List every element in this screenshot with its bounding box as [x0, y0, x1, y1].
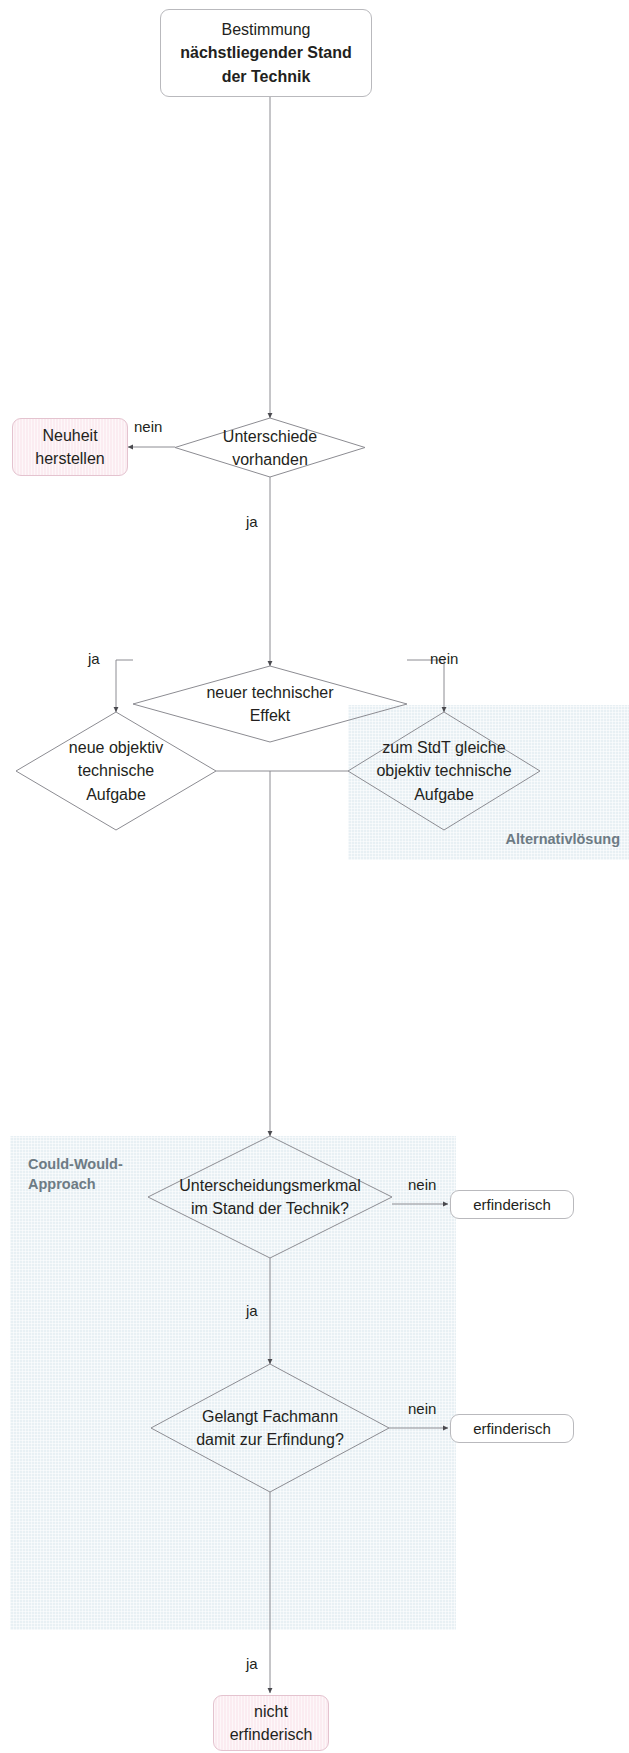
- zone-label-could-would-approach: Could-Would- Approach: [28, 1155, 208, 1194]
- edge-label-fachmann-ja: ja: [246, 1655, 258, 1672]
- node-neue-objektiv-technische-aufgabe[interactable]: neue objektiv technische Aufgabe: [16, 712, 216, 830]
- edge-label-effekt-nein: nein: [430, 650, 458, 667]
- node-neue-objektiv-technische-aufgabe-label: neue objektiv technische Aufgabe: [16, 712, 216, 830]
- edge-label-merkmal-ja: ja: [246, 1302, 258, 1319]
- node-zum-stdt-gleiche-aufgabe[interactable]: zum StdT gleiche objektiv technische Auf…: [348, 712, 540, 830]
- flowchart-canvas: Alternativlösung Could-Would- Approach: [0, 0, 629, 1753]
- zone-label-alternativloesung: Alternativlösung: [430, 830, 620, 850]
- node-zum-stdt-gleiche-aufgabe-label: zum StdT gleiche objektiv technische Auf…: [339, 712, 549, 830]
- edge-label-effekt-ja: ja: [88, 650, 100, 667]
- node-bestimmung-stand-der-technik[interactable]: Bestimmung nächstliegender Stand der Tec…: [160, 9, 372, 97]
- node-gelangt-fachmann[interactable]: Gelangt Fachmann damit zur Erfindung?: [151, 1364, 389, 1492]
- node-neuheit-herstellen[interactable]: Neuheit herstellen: [12, 418, 128, 476]
- node-erfinderisch-1[interactable]: erfinderisch: [450, 1190, 574, 1219]
- edge-label-unterschiede-ja: ja: [246, 513, 258, 530]
- node-unterschiede-vorhanden-label: Unterschiede vorhanden: [175, 418, 365, 478]
- edge-label-merkmal-nein: nein: [408, 1176, 436, 1193]
- title-line-1: Bestimmung: [222, 18, 311, 41]
- node-erfinderisch-2[interactable]: erfinderisch: [450, 1414, 574, 1443]
- edge-label-fachmann-nein: nein: [408, 1400, 436, 1417]
- title-line-2: nächstliegender Stand: [180, 41, 352, 64]
- edge-label-unterschiede-nein: nein: [134, 418, 162, 435]
- title-line-3: der Technik: [222, 65, 311, 88]
- node-gelangt-fachmann-label: Gelangt Fachmann damit zur Erfindung?: [143, 1364, 397, 1492]
- node-nicht-erfinderisch[interactable]: nicht erfinderisch: [213, 1695, 329, 1751]
- node-unterschiede-vorhanden[interactable]: Unterschiede vorhanden: [175, 418, 365, 478]
